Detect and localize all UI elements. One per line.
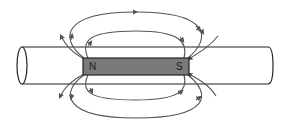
north-pole-label: N (89, 61, 96, 72)
bar-magnet: N S (83, 58, 189, 75)
south-pole-label: S (176, 61, 183, 72)
rod-end-ellipse (17, 47, 27, 84)
magnet-field-diagram: N S (0, 0, 287, 128)
